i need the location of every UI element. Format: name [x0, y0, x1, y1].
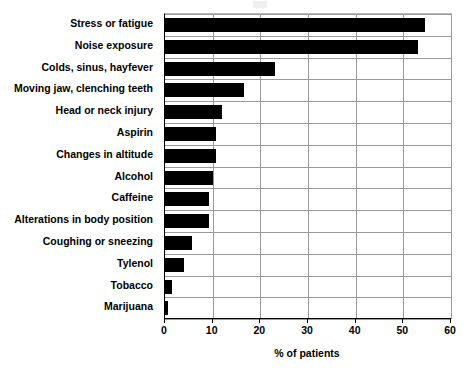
category-axis-labels: Stress or fatigueNoise exposureColds, si…	[0, 13, 157, 318]
x-axis-tick	[307, 318, 308, 323]
x-axis-tick	[259, 318, 260, 323]
category-label: Alcohol	[0, 166, 157, 188]
bar-row	[165, 14, 451, 36]
x-axis-tick	[402, 318, 403, 323]
x-axis-tick-label: 20	[244, 324, 274, 336]
gridline-horizontal	[165, 319, 451, 320]
category-label: Alterations in body position	[0, 209, 157, 231]
bar-row	[165, 101, 451, 123]
bar-chart: Stress or fatigueNoise exposureColds, si…	[0, 0, 468, 377]
gridline-vertical	[451, 14, 452, 319]
plot-area	[164, 13, 452, 319]
bar	[165, 105, 222, 119]
x-axis-tick-label: 50	[387, 324, 417, 336]
category-label: Tylenol	[0, 253, 157, 275]
bar-row	[165, 188, 451, 210]
bar-row	[165, 276, 451, 298]
bar-row	[165, 145, 451, 167]
bar-row	[165, 167, 451, 189]
bar	[165, 192, 209, 206]
x-axis-tick	[164, 318, 165, 323]
category-label: Caffeine	[0, 187, 157, 209]
bar	[165, 258, 184, 272]
bar-row	[165, 123, 451, 145]
bar	[165, 171, 213, 185]
category-label: Aspirin	[0, 122, 157, 144]
bar	[165, 236, 192, 250]
bar	[165, 301, 168, 315]
scan-artifact	[253, 1, 267, 8]
x-axis-tick	[450, 318, 451, 323]
category-label: Tobacco	[0, 275, 157, 297]
bar-row	[165, 36, 451, 58]
bar	[165, 62, 275, 76]
bar	[165, 83, 244, 97]
bar-row	[165, 254, 451, 276]
bar-row	[165, 210, 451, 232]
x-axis-tick-label: 40	[340, 324, 370, 336]
category-label: Stress or fatigue	[0, 13, 157, 35]
x-axis-tick-label: 30	[292, 324, 322, 336]
bar	[165, 127, 216, 141]
x-axis-tick	[212, 318, 213, 323]
category-label: Noise exposure	[0, 35, 157, 57]
category-label: Head or neck injury	[0, 100, 157, 122]
bar	[165, 214, 209, 228]
bar-row	[165, 79, 451, 101]
bar	[165, 18, 425, 32]
category-label: Moving jaw, clenching teeth	[0, 78, 157, 100]
x-axis-tick-label: 0	[149, 324, 179, 336]
x-axis-tick-label: 60	[435, 324, 465, 336]
x-axis-tick-label: 10	[197, 324, 227, 336]
category-label: Colds, sinus, hayfever	[0, 57, 157, 79]
bar-row	[165, 297, 451, 319]
category-label: Changes in altitude	[0, 144, 157, 166]
bar	[165, 40, 418, 54]
category-label: Coughing or sneezing	[0, 231, 157, 253]
category-label: Marijuana	[0, 296, 157, 318]
bar	[165, 149, 216, 163]
bar	[165, 280, 172, 294]
bar-row	[165, 58, 451, 80]
x-axis-title: % of patients	[164, 347, 450, 359]
bar-row	[165, 232, 451, 254]
x-axis-tick	[355, 318, 356, 323]
